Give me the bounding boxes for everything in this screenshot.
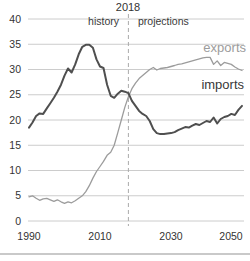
y-tick-label: 15 (9, 139, 21, 151)
y-tick-label: 10 (9, 164, 21, 176)
exports-series-label: exports (203, 41, 246, 54)
y-tick-label: 30 (9, 63, 21, 75)
imports-series-label: imports (201, 78, 244, 91)
y-tick-label: 20 (9, 114, 21, 126)
trade-line-chart: 05101520253035401990201020302050 2018 hi… (0, 0, 250, 252)
y-tick-label: 0 (15, 215, 21, 227)
x-tick-label: 2030 (159, 230, 183, 242)
x-tick-label: 1990 (17, 230, 41, 242)
history-region-label: history (88, 16, 119, 27)
x-tick-label: 2050 (219, 230, 243, 242)
y-tick-label: 25 (9, 88, 21, 100)
projections-region-label: projections (138, 16, 189, 27)
y-tick-label: 40 (9, 13, 21, 25)
page: 05101520253035401990201020302050 2018 hi… (0, 0, 250, 261)
x-tick-label: 2010 (88, 230, 112, 242)
chart-canvas: 05101520253035401990201020302050 (0, 0, 250, 252)
bottom-divider (0, 253, 250, 255)
y-tick-label: 35 (9, 38, 21, 50)
divider-year-label: 2018 (116, 2, 140, 13)
y-tick-label: 5 (15, 189, 21, 201)
